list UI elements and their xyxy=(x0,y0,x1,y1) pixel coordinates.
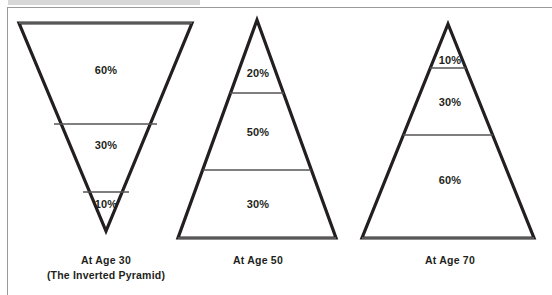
pyramid-age-70-caption-line1: At Age 70 xyxy=(425,253,475,268)
pyramid-age-50-caption: At Age 50 xyxy=(233,253,283,268)
pyramid-figure: 60% 30% 10% 20% 50% 30% 10% 30% 60% At A… xyxy=(0,0,552,295)
pyramid-age-50-segment-3-label: 30% xyxy=(247,198,270,210)
pyramid-age-30-caption-line2: (The Inverted Pyramid) xyxy=(47,268,165,283)
pyramid-age-30-segment-1-label: 60% xyxy=(95,64,118,76)
pyramid-age-70-segment-1-label: 10% xyxy=(439,54,462,66)
pyramid-age-30-caption: At Age 30 (The Inverted Pyramid) xyxy=(47,253,165,283)
pyramid-age-70-caption: At Age 70 xyxy=(425,253,475,268)
pyramid-age-50-segment-2-label: 50% xyxy=(247,126,270,138)
pyramid-age-50-segment-1-label: 20% xyxy=(247,67,270,79)
pyramid-age-70-segment-3-label: 60% xyxy=(439,174,462,186)
pyramid-age-30-caption-line1: At Age 30 xyxy=(47,253,165,268)
pyramid-shapes-layer xyxy=(0,0,552,295)
pyramid-age-70-segment-2-label: 30% xyxy=(439,96,462,108)
pyramid-age-50-caption-line1: At Age 50 xyxy=(233,253,283,268)
pyramid-age-30-segment-2-label: 30% xyxy=(95,139,118,151)
pyramid-age-30-segment-3-label: 10% xyxy=(95,198,118,210)
